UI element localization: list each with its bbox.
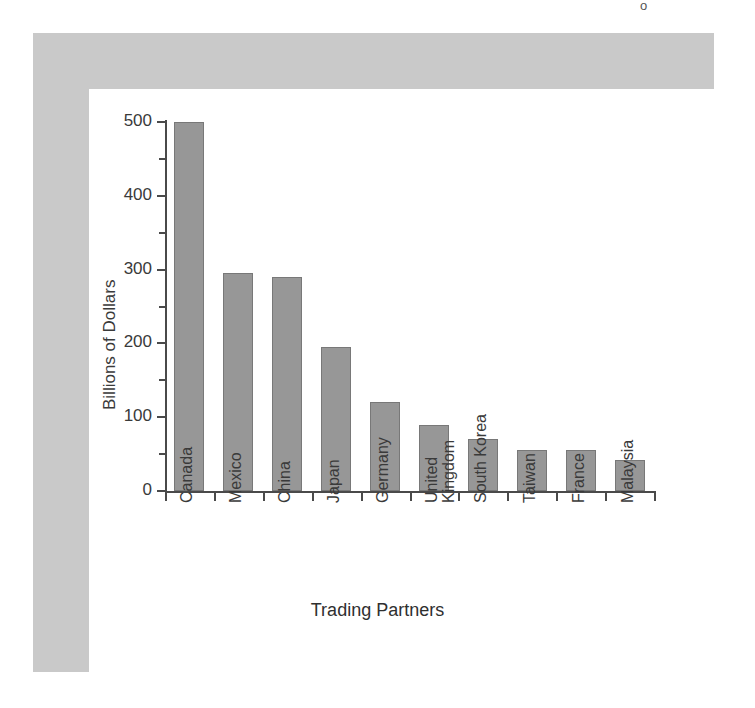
scan-bleed-glyph: o bbox=[640, 0, 647, 13]
figure-canvas bbox=[89, 89, 723, 681]
figure-frame bbox=[33, 33, 714, 672]
scan-bleed-top: o bbox=[0, 0, 755, 30]
